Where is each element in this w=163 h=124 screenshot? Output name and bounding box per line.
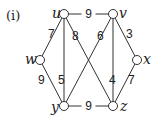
graph-figure: (i) 9785643979 uvwxyz	[0, 0, 163, 124]
edge-weight-y-z: 9	[85, 99, 92, 113]
node-y	[60, 102, 69, 111]
node-v	[109, 10, 118, 19]
node-z	[109, 102, 118, 111]
node-label-y: y	[50, 99, 60, 115]
node-label-z: z	[119, 98, 128, 114]
node-label-v: v	[119, 5, 127, 21]
edge-weight-x-z: 7	[128, 73, 135, 87]
edge-weight-u-z: 8	[72, 29, 79, 43]
node-label-w: w	[25, 51, 37, 67]
edge-weight-w-y: 9	[38, 73, 45, 87]
edge-weight-v-y: 6	[97, 29, 104, 43]
figure-label: (i)	[6, 8, 20, 23]
weighted-graph: (i) 9785643979 uvwxyz	[0, 0, 163, 124]
edge-weight-u-w: 7	[48, 27, 55, 41]
node-label-x: x	[143, 51, 151, 67]
edge-weight-u-v: 9	[85, 7, 92, 21]
node-x	[133, 56, 142, 65]
edge-weight-v-z: 4	[109, 73, 116, 87]
edge-weight-v-x: 3	[126, 27, 133, 41]
node-label-u: u	[52, 5, 61, 21]
edge-weight-u-y: 5	[58, 73, 65, 87]
